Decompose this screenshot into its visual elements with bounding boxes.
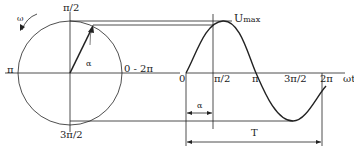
label-3pi-half-circle: 3π/2 (60, 130, 83, 140)
alpha-wave-label: α (197, 101, 202, 111)
tick-2pi: 2π (320, 74, 333, 84)
tick-pi: π (252, 74, 259, 84)
sine-wave (186, 21, 326, 121)
label-pi-circle: π (7, 65, 14, 75)
tick-3pi-half: 3π/2 (284, 74, 307, 84)
omega-label: ω (17, 14, 24, 24)
tick-0: 0 (179, 74, 185, 84)
alpha-circle-label: α (86, 59, 91, 69)
omega-t-label: ωt (343, 74, 354, 84)
umax-label: Umax (234, 14, 260, 25)
label-pi-half-circle: π/2 (63, 3, 79, 13)
phasor-arrowhead (88, 25, 94, 33)
sine-phasor-diagram: ω π/2 π 0 - 2π 3π/2 α Umax 0 π/2 π 3π/2 … (0, 0, 354, 150)
rotation-arrow (22, 14, 37, 30)
label-zero-2pi: 0 - 2π (124, 64, 153, 74)
tick-pi-half: π/2 (214, 74, 230, 84)
period-label: T (251, 128, 258, 138)
